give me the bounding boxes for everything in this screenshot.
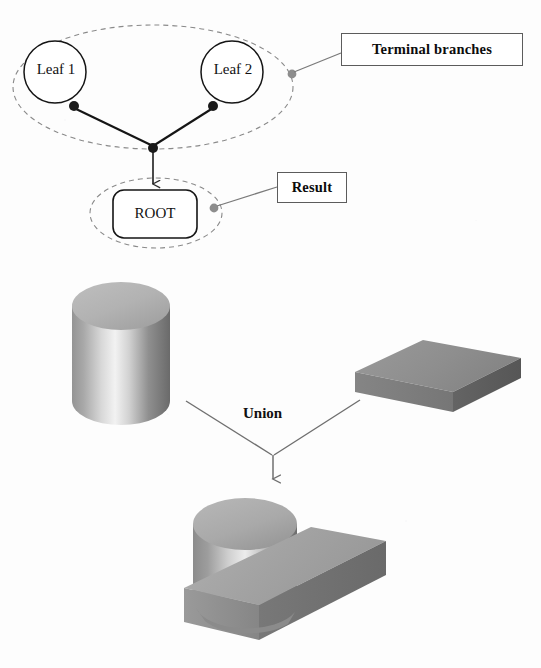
union-arrow-from-block (274, 400, 360, 455)
union-operation-label: Union (243, 405, 282, 422)
callout-result[interactable]: Result (277, 172, 347, 203)
leaf2-node-label: Leaf 2 (205, 61, 261, 78)
callout-terminal-branches-label: Terminal branches (372, 41, 492, 58)
operand-block (355, 340, 521, 412)
callout-terminal-branches[interactable]: Terminal branches (341, 33, 523, 66)
leaf2-connector-dot (208, 101, 218, 111)
leaf1-node-label: Leaf 1 (28, 61, 84, 78)
branch-junction-dot (148, 143, 158, 153)
root-node-label: ROOT (113, 205, 197, 222)
terminal-branches-leader-line (294, 53, 341, 72)
leaf1-connector-dot (69, 101, 79, 111)
callout-result-label: Result (292, 179, 333, 196)
diagram-vector-layer (0, 0, 541, 668)
figure-canvas: Leaf 1 Leaf 2 ROOT Terminal branches Res… (0, 0, 541, 668)
edge-leaf2-to-junction (153, 108, 213, 146)
cylinder-top-face (72, 282, 170, 330)
result-leader-dot (210, 204, 219, 213)
edge-leaf1-to-junction (74, 108, 153, 146)
result-solid (184, 498, 386, 640)
operand-cylinder (72, 282, 170, 425)
result-leader-line (217, 187, 277, 206)
